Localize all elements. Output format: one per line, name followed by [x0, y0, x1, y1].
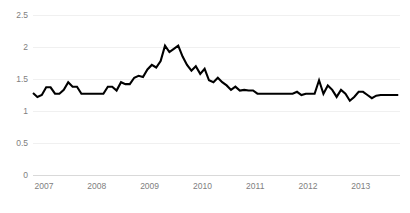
x-tick-label: 2013 [351, 181, 370, 191]
x-tick-label: 2012 [299, 181, 318, 191]
y-tick-label: 2.5 [16, 10, 28, 20]
x-tick-label: 2007 [35, 181, 54, 191]
y-tick-label: 0.5 [16, 138, 28, 148]
line-chart: 00.511.522.5 200720082009201020112012201… [0, 0, 410, 213]
x-tick-label: 2009 [140, 181, 159, 191]
chart-canvas: 00.511.522.5 200720082009201020112012201… [0, 0, 410, 213]
y-tick-label: 1 [23, 106, 28, 116]
x-tick-label: 2011 [246, 181, 265, 191]
x-tick-label: 2010 [193, 181, 212, 191]
y-tick-label: 2 [23, 42, 28, 52]
y-tick-label: 0 [23, 170, 28, 180]
y-tick-label: 1.5 [16, 74, 28, 84]
x-tick-label: 2008 [87, 181, 106, 191]
